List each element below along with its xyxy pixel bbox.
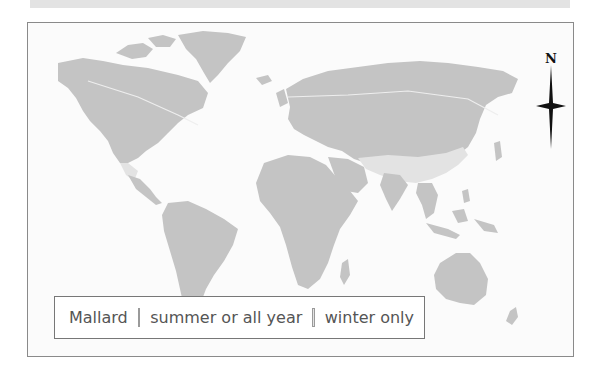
legend-label-winter-only: winter only bbox=[325, 308, 414, 327]
swatch-winter-only bbox=[312, 308, 314, 327]
compass-north-label: N bbox=[536, 51, 566, 66]
australia bbox=[434, 253, 488, 305]
header-band bbox=[30, 0, 570, 8]
greenland bbox=[178, 31, 246, 83]
compass: N bbox=[536, 51, 566, 151]
legend-label-summer-or-all-year: summer or all year bbox=[150, 308, 302, 327]
legend: Mallard summer or all year winter only bbox=[54, 296, 425, 339]
north-arrow-compass-icon bbox=[536, 65, 566, 149]
north-america bbox=[58, 58, 208, 163]
swatch-summer-or-all-year bbox=[138, 308, 140, 327]
legend-title: Mallard bbox=[69, 308, 128, 327]
